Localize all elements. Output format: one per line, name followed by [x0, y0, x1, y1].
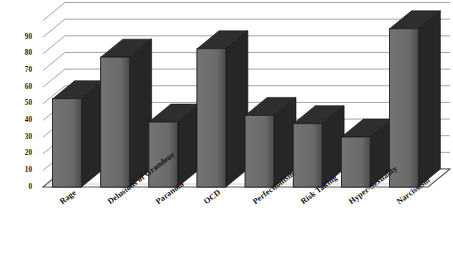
bar-6: [293, 106, 344, 187]
y-tick-label-0: 0: [10, 184, 32, 191]
bar-1: [53, 81, 104, 187]
bar-4: [197, 31, 248, 187]
bar-chart-svg: [0, 0, 453, 277]
bar-2: [101, 39, 152, 187]
bar-8: [390, 11, 441, 187]
y-tick-label-10: 10: [10, 167, 32, 174]
y-tick-label-80: 80: [10, 50, 32, 57]
chart-figure: 0102030405060708090 RageDelusions of Gra…: [0, 0, 453, 277]
plot-area: 0102030405060708090 RageDelusions of Gra…: [0, 0, 453, 277]
bar-3: [149, 104, 200, 187]
y-tick-label-30: 30: [10, 134, 32, 141]
bars-group: [53, 11, 441, 187]
y-tick-label-90: 90: [10, 34, 32, 41]
y-tick-label-50: 50: [10, 100, 32, 107]
y-tick-label-60: 60: [10, 84, 32, 91]
y-tick-label-40: 40: [10, 117, 32, 124]
y-tick-label-70: 70: [10, 67, 32, 74]
y-tick-label-20: 20: [10, 150, 32, 157]
